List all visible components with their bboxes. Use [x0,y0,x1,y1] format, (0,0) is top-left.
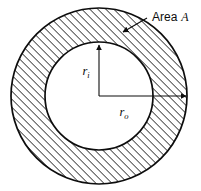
area-callout-word: Area [152,10,178,24]
area-callout-symbol: A [180,10,189,24]
area-callout-label: AreaA [152,10,189,24]
annulus-figure: ri ro AreaA [0,0,201,191]
outer-radius-subscript: o [124,111,128,121]
annulus-diagram-svg: ri ro AreaA [0,0,201,191]
